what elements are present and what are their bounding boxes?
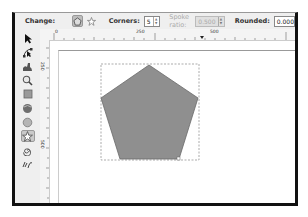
arrow-icon xyxy=(23,33,33,44)
tool-node[interactable] xyxy=(21,46,35,58)
inkscape-window: Change: Corners: 5 ▲▼ Spoke ratio: 0.500… xyxy=(12,12,298,206)
tool-zoom[interactable] xyxy=(21,74,35,86)
tool-controls-bar: Change: Corners: 5 ▲▼ Spoke ratio: 0.500… xyxy=(15,13,295,30)
corners-label: Corners: xyxy=(109,17,140,25)
tool-star-polygon[interactable] xyxy=(21,130,35,142)
shape-handle[interactable] xyxy=(177,157,180,160)
horizontal-ruler[interactable]: 0 250 500 xyxy=(40,29,295,41)
corners-value: 5 xyxy=(147,18,151,25)
change-label: Change: xyxy=(25,17,55,25)
tweak-icon xyxy=(22,61,33,72)
spoke-ratio-value: 0.500 xyxy=(198,18,215,25)
spin-arrows-icon[interactable]: ▲▼ xyxy=(153,17,159,26)
h-ruler-label-2: 500 xyxy=(210,29,219,34)
h-ruler-label-1: 250 xyxy=(136,29,145,34)
spoke-ratio-spinner[interactable]: 0.500 ▲▼ xyxy=(195,16,224,27)
rounded-value: 0.000 xyxy=(277,18,294,25)
tool-selector[interactable] xyxy=(21,32,35,44)
corners-spinner[interactable]: 5 ▲▼ xyxy=(144,16,160,27)
toolbox xyxy=(15,29,40,203)
h-ruler-label-0: 0 xyxy=(55,29,58,34)
v-ruler-label-1: 500 xyxy=(40,140,45,149)
tool-3d-box[interactable] xyxy=(21,102,35,114)
polygon-mode-button[interactable] xyxy=(72,15,83,27)
star-mode-button[interactable] xyxy=(87,15,96,27)
rounded-input[interactable]: 0.000 xyxy=(274,16,295,27)
tool-pencil[interactable] xyxy=(21,158,35,170)
star-icon xyxy=(22,131,33,142)
tool-spiral[interactable] xyxy=(21,144,35,156)
ellipse-icon xyxy=(22,117,33,128)
canvas-objects xyxy=(50,41,295,203)
pencil-icon xyxy=(22,159,34,169)
pentagon-shape[interactable] xyxy=(101,65,198,159)
spiral-icon xyxy=(22,145,33,156)
spin-arrows-icon[interactable]: ▲▼ xyxy=(218,17,224,26)
box3d-icon xyxy=(22,103,33,114)
star-icon xyxy=(87,17,96,26)
rectangle-icon xyxy=(23,89,33,99)
spoke-ratio-label: Spoke ratio: xyxy=(169,13,191,29)
tool-tweak[interactable] xyxy=(21,60,35,72)
polygon-icon xyxy=(73,17,82,26)
tool-ellipse[interactable] xyxy=(21,116,35,128)
ruler-ticks xyxy=(40,29,295,40)
v-ruler-label-0: 250 xyxy=(40,62,45,71)
rounded-label: Rounded: xyxy=(235,17,270,25)
zoom-icon xyxy=(22,75,33,86)
ruler-pointer xyxy=(200,36,204,39)
node-icon xyxy=(22,47,33,58)
vertical-ruler[interactable]: 250 500 xyxy=(40,40,50,203)
tool-rectangle[interactable] xyxy=(21,88,35,100)
drawing-canvas[interactable] xyxy=(50,41,295,203)
